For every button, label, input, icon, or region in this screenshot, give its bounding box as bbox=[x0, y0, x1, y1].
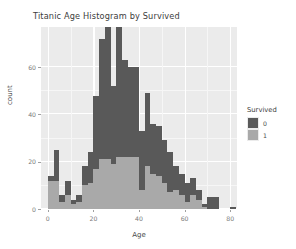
legend-key-box bbox=[247, 117, 259, 129]
plot-panel bbox=[41, 27, 237, 209]
bar-segment-survived-0 bbox=[213, 197, 219, 209]
x-tick-mark bbox=[93, 210, 94, 212]
x-tick-label: 60 bbox=[175, 215, 195, 222]
y-tick-mark bbox=[38, 67, 40, 68]
legend-items: 01 bbox=[247, 117, 293, 141]
histogram-bar bbox=[213, 197, 219, 209]
x-axis-title: Age bbox=[41, 231, 237, 239]
y-tick-mark bbox=[38, 114, 40, 115]
x-tick-label: 0 bbox=[38, 215, 58, 222]
x-tick-mark bbox=[139, 210, 140, 212]
page-title: Titanic Age Histogram by Survived bbox=[33, 11, 180, 21]
legend-item[interactable]: 1 bbox=[247, 129, 293, 141]
y-tick-label: 60 bbox=[28, 64, 36, 71]
y-tick-mark bbox=[38, 209, 40, 210]
x-tick-mark bbox=[230, 210, 231, 212]
bar-segment-survived-0 bbox=[54, 150, 60, 181]
x-tick-label: 80 bbox=[220, 215, 240, 222]
histogram-bars bbox=[41, 27, 237, 209]
x-tick-label: 20 bbox=[83, 215, 103, 222]
x-tick-mark bbox=[48, 210, 49, 212]
bar-segment-survived-0 bbox=[196, 190, 202, 199]
y-tick-label: 0 bbox=[32, 206, 36, 213]
y-tick-mark bbox=[38, 162, 40, 163]
legend: Survived 01 bbox=[247, 106, 293, 141]
x-tick-mark bbox=[185, 210, 186, 212]
chart-figure: Titanic Age Histogram by Survived count … bbox=[0, 0, 296, 249]
legend-item[interactable]: 0 bbox=[247, 117, 293, 129]
legend-label: 1 bbox=[263, 132, 267, 139]
y-axis-title: count bbox=[6, 85, 14, 105]
legend-label: 0 bbox=[263, 120, 267, 127]
legend-key-box bbox=[247, 129, 259, 141]
y-tick-label: 40 bbox=[28, 111, 36, 118]
y-tick-label: 20 bbox=[28, 158, 36, 165]
x-tick-label: 40 bbox=[129, 215, 149, 222]
legend-color-swatch bbox=[248, 130, 258, 140]
legend-color-swatch bbox=[248, 118, 258, 128]
legend-title: Survived bbox=[247, 106, 293, 114]
bar-segment-survived-0 bbox=[65, 181, 71, 195]
